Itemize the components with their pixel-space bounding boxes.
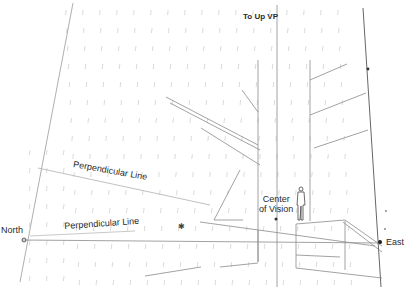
construction-lines	[145, 60, 382, 278]
right-dot-1	[385, 210, 387, 212]
center-of-vision-label: Center of Vision	[259, 194, 293, 215]
right-vertical-point	[367, 68, 370, 71]
east-label: East	[386, 238, 404, 247]
center-of-vision-point	[275, 218, 278, 221]
horizon-line	[22, 240, 382, 243]
center-of-vision-line-1: Center	[259, 194, 293, 204]
right-dot-2	[384, 228, 386, 230]
east-vp-point	[378, 240, 382, 244]
star-mark: ✱	[178, 222, 185, 231]
up-vp-label: To Up VP	[243, 13, 278, 21]
north-label: North	[1, 226, 23, 235]
center-of-vision-line-2: of Vision	[259, 204, 293, 214]
perpendicular-line-2	[30, 231, 135, 236]
grid-ticks	[29, 10, 351, 285]
right-vertical-line	[363, 8, 381, 287]
human-figure-icon	[297, 187, 305, 220]
